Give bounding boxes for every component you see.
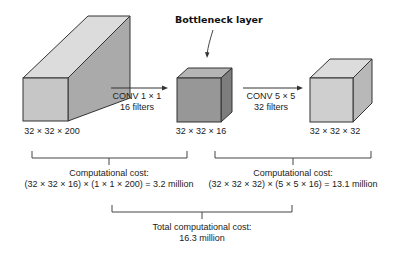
conv1x1-kernel-label: CONV 1 × 1 [106,91,168,102]
bottleneck-pointer-arrow [205,30,213,58]
total-cost-block: Total computational cost: 16.3 million [142,222,262,244]
conv1x1-operation: CONV 1 × 1 16 filters [106,91,168,113]
conv1x1-filters-label: 16 filters [106,102,168,113]
bottleneck-volume-block [177,68,232,122]
output-volume-label: 32 × 32 × 32 [300,126,370,137]
cost-bracket-2 [215,151,371,165]
cost-2-formula: (32 × 32 × 32) × (5 × 5 × 16) = 13.1 mil… [198,179,388,190]
total-cost-bracket [112,205,292,219]
cost-1-formula: (32 × 32 × 16) × (1 × 1 × 200) = 3.2 mil… [14,179,204,190]
bottleneck-layer-title: Bottleneck layer [175,14,263,25]
cost-1-title: Computational cost: [14,168,204,179]
conv5x5-kernel-label: CONV 5 × 5 [240,91,302,102]
conv5x5-arrow [243,86,303,91]
cost-block-1: Computational cost: (32 × 32 × 16) × (1 … [14,168,204,190]
input-volume-label: 32 × 32 × 200 [12,126,92,137]
cost-bracket-1 [32,151,187,165]
total-cost-title: Total computational cost: [142,222,262,233]
total-cost-value: 16.3 million [142,233,262,244]
output-volume-block [310,59,372,122]
conv5x5-filters-label: 32 filters [240,102,302,113]
cost-2-title: Computational cost: [198,168,388,179]
conv5x5-operation: CONV 5 × 5 32 filters [240,91,302,113]
cost-block-2: Computational cost: (32 × 32 × 32) × (5 … [198,168,388,190]
bottleneck-volume-label: 32 × 32 × 16 [166,126,236,137]
